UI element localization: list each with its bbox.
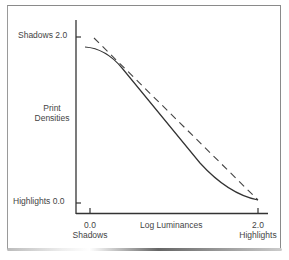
dashed-series-line	[94, 38, 258, 200]
x-tick-left-name: Shadows	[70, 231, 110, 241]
x-axis-title: Log Luminances	[140, 221, 202, 231]
x-tick-right-name: Highlights	[233, 231, 283, 241]
y-axis-title-line2: Densities	[30, 114, 74, 124]
x-tick-label-left: 0.0 Shadows	[70, 221, 110, 241]
y-axis-title: Print Densities	[30, 104, 74, 124]
x-tick-label-right: 2.0 Highlights	[233, 221, 283, 241]
solid-series-curve	[85, 47, 258, 200]
y-tick-label-top: Shadows 2.0	[18, 31, 67, 41]
y-tick-label-bottom: Highlights 0.0	[13, 197, 65, 207]
